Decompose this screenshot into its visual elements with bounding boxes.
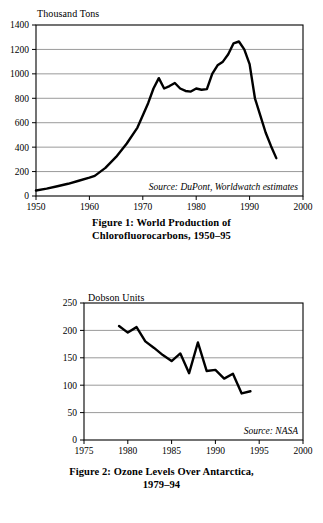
- svg2-data-series-line: [119, 326, 250, 393]
- y-tick-label-200: 200: [63, 326, 78, 336]
- y-tick-label-1400: 1400: [10, 20, 29, 30]
- x-tick-label-1985: 1985: [162, 446, 181, 456]
- svg1-source-note: Source: DuPont, Worldwatch estimates: [149, 182, 298, 192]
- svg2-plot-frame: [84, 303, 303, 440]
- figure-1-caption-line-1: Figure 1: World Production of: [0, 217, 323, 230]
- x-tick-label-1970: 1970: [133, 202, 152, 212]
- x-tick-label-1950: 1950: [27, 202, 46, 212]
- svg1-x-tick-labels: 195019601970198019902000: [27, 202, 313, 212]
- y-tick-label-800: 800: [15, 94, 30, 104]
- svg1-y-tick-labels: 0200400600800100012001400: [10, 20, 29, 201]
- figure-1-chart: 0200400600800100012001400195019601970198…: [0, 0, 323, 215]
- figure-2-chart: 050100150200250197519801985199019952000S…: [0, 285, 323, 465]
- figure-2-plot-wrap: Dobson Units 050100150200250197519801985…: [0, 285, 323, 465]
- y-tick-label-200: 200: [15, 167, 30, 177]
- y-tick-label-1200: 1200: [10, 45, 29, 55]
- y-tick-label-1000: 1000: [10, 69, 29, 79]
- y-tick-label-600: 600: [15, 118, 30, 128]
- figure-2-caption-line-1: Figure 2: Ozone Levels Over Antarctica,: [0, 466, 323, 479]
- y-tick-label-100: 100: [63, 381, 78, 391]
- figure-1-caption: Figure 1: World Production of Chlorofluo…: [0, 217, 323, 242]
- svg1-tickmarks: [32, 25, 303, 200]
- x-tick-label-1975: 1975: [75, 446, 94, 456]
- svg2-tickmarks: [80, 303, 303, 444]
- y-tick-label-250: 250: [63, 298, 78, 308]
- y-tick-label-0: 0: [24, 191, 29, 201]
- figure-2-y-unit-label: Dobson Units: [88, 292, 144, 303]
- x-tick-label-2000: 2000: [294, 202, 313, 212]
- figure-2-caption: Figure 2: Ozone Levels Over Antarctica, …: [0, 466, 323, 491]
- svg2-x-tick-labels: 197519801985199019952000: [75, 446, 313, 456]
- x-tick-label-1990: 1990: [206, 446, 225, 456]
- y-tick-label-150: 150: [63, 353, 78, 363]
- svg1-plot-frame: [36, 25, 303, 196]
- y-tick-label-0: 0: [72, 435, 77, 445]
- svg1-gridlines: [36, 49, 303, 171]
- x-tick-label-1980: 1980: [118, 446, 137, 456]
- figure-1: Thousand Tons 02004006008001000120014001…: [0, 0, 323, 255]
- x-tick-label-1995: 1995: [250, 446, 269, 456]
- svg2-y-tick-labels: 050100150200250: [63, 298, 78, 445]
- svg2-source-note: Source: NASA: [244, 426, 298, 436]
- figure-1-caption-line-2: Chlorofluorocarbons, 1950–95: [0, 230, 323, 243]
- x-tick-label-1980: 1980: [187, 202, 206, 212]
- x-tick-label-1960: 1960: [80, 202, 99, 212]
- figure-2-caption-line-2: 1979–94: [0, 479, 323, 492]
- figure-1-y-unit-label: Thousand Tons: [37, 8, 99, 19]
- x-tick-label-2000: 2000: [294, 446, 313, 456]
- y-tick-label-400: 400: [15, 143, 30, 153]
- figure-1-plot-wrap: Thousand Tons 02004006008001000120014001…: [0, 0, 323, 215]
- y-tick-label-50: 50: [68, 408, 78, 418]
- figure-2: Dobson Units 050100150200250197519801985…: [0, 285, 323, 523]
- x-tick-label-1990: 1990: [240, 202, 259, 212]
- svg2-gridlines: [84, 330, 303, 412]
- svg1-data-series-line: [36, 41, 276, 190]
